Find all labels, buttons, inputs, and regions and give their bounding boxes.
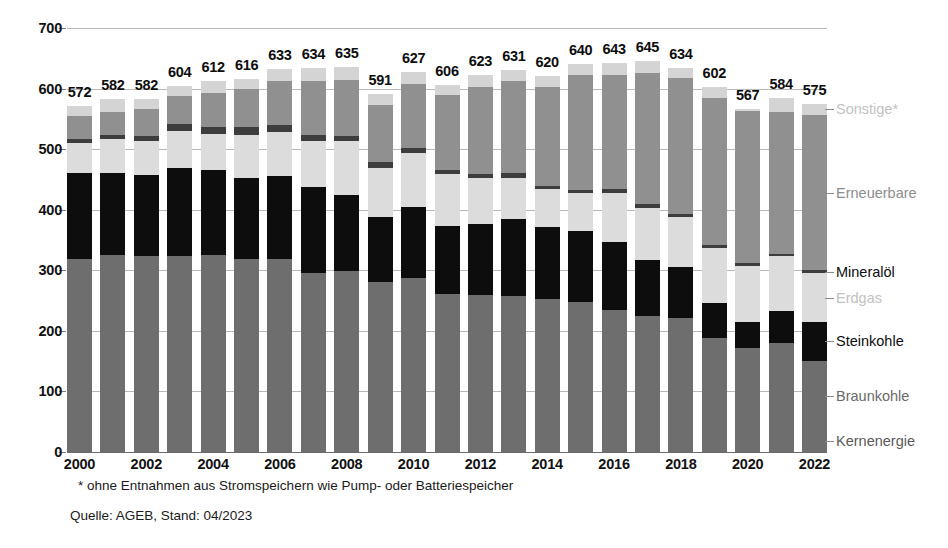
bar-value-label: 584 — [769, 76, 792, 92]
bar-segment-braunkohle — [368, 282, 393, 370]
bar-segment-erneuerbare — [134, 109, 159, 136]
bar-segment-braunkohle — [67, 259, 92, 349]
bar-segment-kernenergie — [635, 406, 660, 452]
bar-segment-sonstige — [501, 70, 526, 82]
bar-segment-sonstige — [735, 109, 760, 111]
bar-segment-steinkohle — [602, 242, 627, 310]
bar-segment-erneuerbare — [668, 78, 693, 214]
bar-segment-erneuerbare — [602, 75, 627, 189]
bar-segment-erdgas — [668, 217, 693, 267]
x-axis-tick-label-2000: 2000 — [64, 456, 95, 472]
legend-item-erdgas[interactable]: Erdgas — [828, 290, 882, 306]
bar-segment-kernenergie — [435, 387, 460, 452]
bar-segment-erdgas — [635, 208, 660, 260]
bar-segment-sonstige — [668, 68, 693, 78]
x-axis-tick-label-2004: 2004 — [197, 456, 228, 472]
bar-segment-minerall — [267, 125, 292, 132]
bar-segment-steinkohle — [568, 231, 593, 302]
bar-segment-minerall — [234, 127, 259, 134]
bar-segment-kernenergie — [167, 352, 192, 452]
bar-segment-erdgas — [368, 168, 393, 217]
bar-value-label: 602 — [703, 65, 726, 81]
bar-segment-steinkohle — [334, 195, 359, 271]
bar-segment-kernenergie — [401, 367, 426, 452]
bar-segment-erneuerbare — [201, 93, 226, 128]
bar-segment-kernenergie — [535, 393, 560, 452]
bar-segment-braunkohle — [167, 256, 192, 352]
bar-segment-sonstige — [435, 85, 460, 95]
footnote-text: * ohne Entnahmen aus Stromspeichern wie … — [78, 478, 513, 493]
gridline — [67, 452, 827, 453]
bar-segment-erdgas — [100, 139, 125, 173]
bar-value-label: 645 — [636, 39, 659, 55]
bar-segment-minerall — [201, 127, 226, 134]
legend-item-minerall[interactable]: Mineralöl — [828, 264, 895, 280]
bar-segment-sonstige — [368, 94, 393, 105]
bar-segment-erdgas — [802, 273, 827, 322]
bar-segment-braunkohle — [267, 259, 292, 350]
bar-segment-sonstige — [568, 64, 593, 75]
bar-segment-sonstige — [401, 72, 426, 84]
bar-segment-sonstige — [134, 99, 159, 108]
bar-segment-erdgas — [334, 141, 359, 195]
bar-segment-braunkohle — [602, 310, 627, 401]
bar-segment-minerall — [301, 135, 326, 141]
bar-segment-kernenergie — [234, 353, 259, 452]
bar-segment-erdgas — [702, 248, 727, 303]
bar-segment-erneuerbare — [501, 81, 526, 173]
bar-segment-erdgas — [735, 266, 760, 322]
bar-segment-steinkohle — [535, 227, 560, 299]
bar-segment-erneuerbare — [100, 112, 125, 136]
bar-segment-erneuerbare — [267, 81, 292, 125]
bar-segment-sonstige — [201, 81, 226, 93]
bar-segment-braunkohle — [301, 273, 326, 367]
bar-segment-erdgas — [167, 131, 192, 168]
bar-segment-steinkohle — [702, 303, 727, 338]
legend-item-sonstige[interactable]: Sonstige* — [828, 101, 898, 117]
bar-segment-erdgas — [201, 134, 226, 170]
bar-segment-erdgas — [568, 193, 593, 231]
legend-item-kernenergie[interactable]: Kernenergie — [828, 433, 915, 449]
bar-segment-sonstige — [234, 79, 259, 89]
legend-item-braunkohle[interactable]: Braunkohle — [828, 388, 909, 404]
legend-item-erneuerbare[interactable]: Erneuerbare — [828, 185, 917, 201]
bar-segment-braunkohle — [735, 348, 760, 413]
chart-legend: Sonstige*ErneuerbareMineralölErdgasStein… — [828, 0, 948, 470]
legend-leader-line — [825, 341, 834, 342]
bar-segment-erneuerbare — [167, 96, 192, 124]
bar-segment-braunkohle — [702, 338, 727, 407]
bar-segment-steinkohle — [301, 187, 326, 273]
bar-segment-kernenergie — [267, 351, 292, 452]
bar-segment-steinkohle — [167, 168, 192, 256]
legend-leader-line — [825, 109, 834, 110]
bar-segment-braunkohle — [100, 255, 125, 349]
bar-segment-erneuerbare — [802, 115, 827, 270]
bar-segment-minerall — [602, 189, 627, 193]
bar-segment-steinkohle — [735, 322, 760, 348]
bar-segment-steinkohle — [668, 267, 693, 317]
bar-segment-erdgas — [602, 193, 627, 242]
x-axis-tick-label-2002: 2002 — [131, 456, 162, 472]
bar-segment-kernenergie — [735, 413, 760, 452]
bar-segment-kernenergie — [702, 407, 727, 452]
bar-segment-erdgas — [67, 143, 92, 173]
bar-segment-erneuerbare — [234, 89, 259, 127]
bar-segment-erneuerbare — [334, 80, 359, 136]
bar-segment-minerall — [802, 270, 827, 273]
bar-segment-minerall — [501, 173, 526, 177]
bar-value-label: 633 — [268, 47, 291, 63]
x-axis-tick-label-2018: 2018 — [665, 456, 696, 472]
bar-segment-erneuerbare — [368, 105, 393, 163]
bar-value-label: 635 — [335, 45, 358, 61]
bar-segment-braunkohle — [568, 302, 593, 396]
x-axis-tick-label-2008: 2008 — [331, 456, 362, 472]
bar-segment-braunkohle — [401, 278, 426, 366]
bar-segment-kernenergie — [501, 393, 526, 452]
bar-segment-sonstige — [635, 61, 660, 73]
bar-segment-minerall — [568, 190, 593, 194]
bar-segment-sonstige — [267, 69, 292, 82]
bar-segment-braunkohle — [769, 343, 794, 410]
bar-segment-minerall — [100, 135, 125, 139]
bar-segment-steinkohle — [368, 217, 393, 282]
legend-item-steinkohle[interactable]: Steinkohle — [828, 333, 904, 349]
